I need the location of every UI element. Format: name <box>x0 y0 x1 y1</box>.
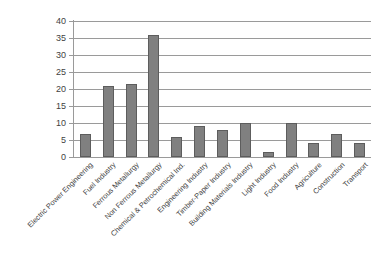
bar <box>263 152 274 157</box>
x-tick-label: Ferrous Metallurgy <box>92 161 141 210</box>
y-tick-mark-0 <box>69 157 74 158</box>
y-tick-label-40: 40 <box>42 17 66 26</box>
y-tick-label-0: 0 <box>42 153 66 162</box>
bar <box>171 137 182 157</box>
bar <box>217 130 228 157</box>
y-tick-label-text: 10 <box>44 119 66 128</box>
x-tick-label: Food Industry <box>263 161 301 199</box>
bar <box>103 86 114 157</box>
y-tick-label-35: 35 <box>42 34 66 43</box>
x-tick-label: Engineering Industry <box>156 161 210 215</box>
y-tick-label-25: 25 <box>42 68 66 77</box>
x-tick-label: Agriculture <box>293 161 324 192</box>
bar <box>331 134 342 157</box>
bar <box>354 143 365 157</box>
x-tick-label: Electric Power Engineering <box>27 161 95 229</box>
x-tick-label: Construction <box>311 161 346 196</box>
bar <box>240 123 251 157</box>
bar <box>80 134 91 157</box>
x-tick-label: Chemical & Petrochemical Ind. <box>109 161 186 238</box>
bars-group <box>74 21 371 157</box>
bar <box>126 84 137 157</box>
y-tick-label-10: 10 <box>42 119 66 128</box>
y-tick-label-15: 15 <box>42 102 66 111</box>
bar <box>286 123 297 157</box>
bar <box>194 126 205 157</box>
y-tick-label-text: 0 <box>44 153 66 162</box>
x-tick-label: Timber-Paper Industry <box>175 161 232 218</box>
x-tick-label: Light Industry <box>241 161 278 198</box>
x-tick-label: Transport <box>341 161 369 189</box>
y-tick-label-20: 20 <box>42 85 66 94</box>
y-tick-label-text: 25 <box>44 68 66 77</box>
y-tick-label-text: 20 <box>44 85 66 94</box>
y-tick-label-text: 40 <box>44 17 66 26</box>
y-tick-label-text: 30 <box>44 51 66 60</box>
gridline-0 <box>74 157 371 158</box>
y-tick-label-5: 5 <box>42 136 66 145</box>
y-tick-label-text: 5 <box>44 136 66 145</box>
y-tick-label-30: 30 <box>42 51 66 60</box>
bar-chart: 0510152025303540 Electric Power Engineer… <box>0 0 386 261</box>
y-tick-label-text: 35 <box>44 34 66 43</box>
x-tick-label: Non Ferrous Metallurgy <box>103 161 163 221</box>
bar <box>308 143 319 157</box>
x-tick-label: Fuel Industry <box>82 161 118 197</box>
bar <box>148 35 159 157</box>
y-tick-label-text: 15 <box>44 102 66 111</box>
x-tick-label: Building Materials Industry <box>188 161 255 228</box>
